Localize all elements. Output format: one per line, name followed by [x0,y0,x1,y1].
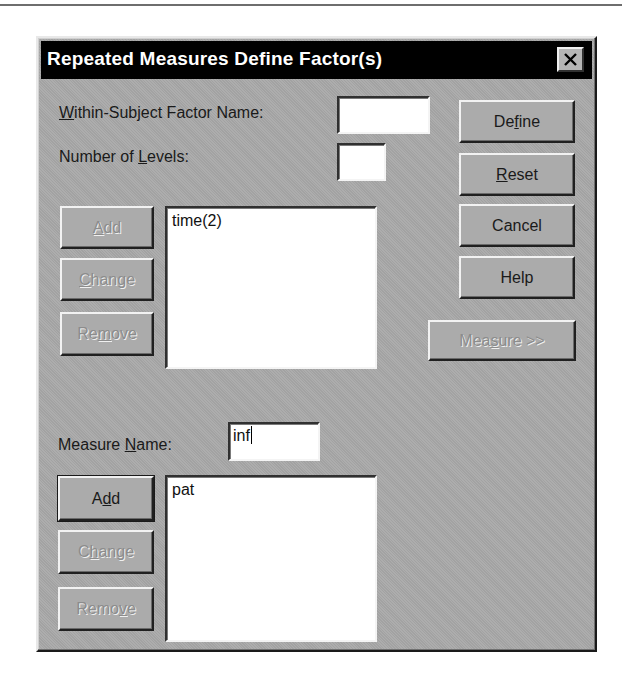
factor-add-button[interactable]: Add [60,206,154,249]
number-of-levels-input[interactable] [337,143,386,181]
close-button[interactable] [557,47,584,72]
factor-listbox[interactable]: time(2) [165,206,377,369]
measure-change-button[interactable]: Change [58,530,154,574]
text-caret [251,426,252,444]
within-subject-factor-name-input[interactable] [337,96,430,134]
factor-change-button[interactable]: Change [60,258,154,301]
title-bar[interactable]: Repeated Measures Define Factor(s) [41,41,592,79]
define-button[interactable]: Define [459,100,575,143]
measure-add-button[interactable]: Add [58,476,154,521]
dialog-title: Repeated Measures Define Factor(s) [47,48,382,70]
reset-button[interactable]: Reset [459,153,575,196]
measure-toggle-button[interactable]: Measure >> [428,320,576,361]
close-x-icon [563,53,578,66]
within-subject-factor-name-label: Within-Subject Factor Name: [59,104,264,122]
measure-name-input[interactable]: inf [228,422,320,461]
factor-list-item[interactable]: time(2) [172,211,370,231]
factor-remove-button[interactable]: Remove [60,312,154,356]
number-of-levels-label: Number of Levels: [59,148,189,166]
repeated-measures-define-factors-dialog: Repeated Measures Define Factor(s) Withi… [36,36,597,652]
page-top-rule [0,4,622,6]
measure-name-label: Measure Name: [58,436,172,454]
measure-remove-button[interactable]: Remove [58,587,154,631]
cancel-button[interactable]: Cancel [459,204,575,247]
measure-list-item[interactable]: pat [172,480,370,500]
help-button[interactable]: Help [459,256,575,299]
measure-name-value: inf [233,427,250,444]
measure-listbox[interactable]: pat [165,475,377,642]
